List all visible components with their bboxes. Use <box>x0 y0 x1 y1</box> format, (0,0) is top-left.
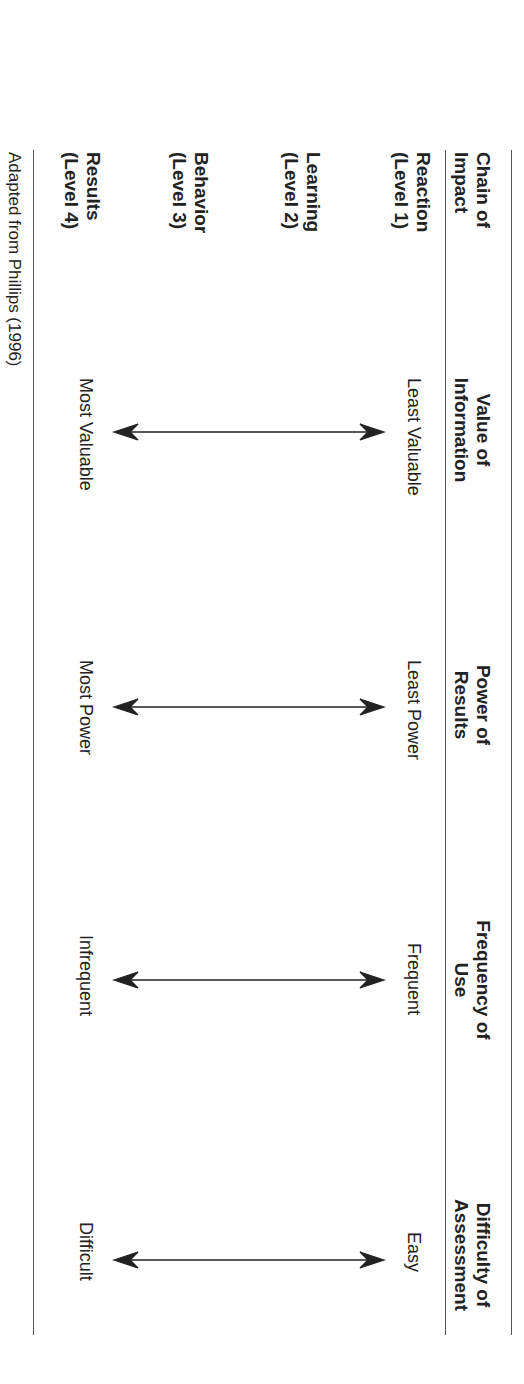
rotated-table: Chain of Impact Value of Information Pow… <box>0 0 524 1384</box>
double-arrows <box>0 0 524 1384</box>
source-note: Adapted from Phillips (1996) <box>4 152 24 367</box>
